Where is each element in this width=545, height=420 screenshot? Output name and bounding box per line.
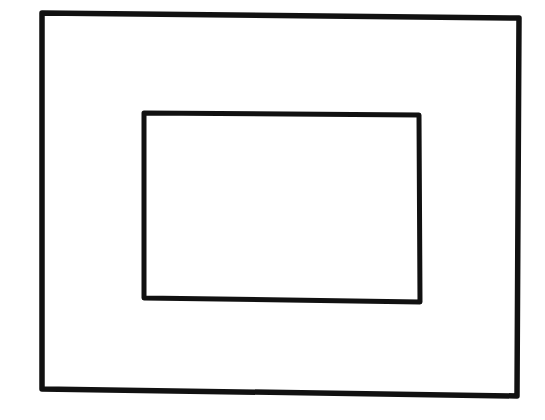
canvas-background	[0, 0, 545, 420]
diagram-canvas	[0, 0, 545, 420]
